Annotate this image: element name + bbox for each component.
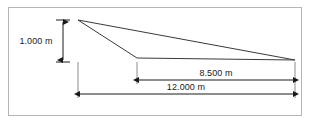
diagram-canvas: 1.000 m 8.500 m 12.000 m xyxy=(0,0,310,125)
run-dimension-label: 8.500 m xyxy=(199,68,232,78)
height-dimension-label: 1.000 m xyxy=(19,36,52,46)
span-dimension-label: 12.000 m xyxy=(167,82,205,92)
outer-frame xyxy=(9,8,302,116)
